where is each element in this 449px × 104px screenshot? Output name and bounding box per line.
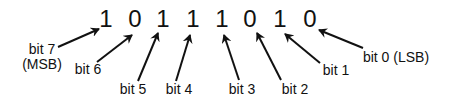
bit-digit-2: 0	[243, 7, 256, 31]
label-bit-5: bit 5	[119, 82, 147, 97]
arrow-bit-0	[319, 30, 363, 48]
label-bit-3: bit 3	[228, 82, 256, 97]
arrow-bit-2	[257, 33, 281, 80]
label-bit-2: bit 2	[281, 82, 309, 97]
arrow-bit-7	[58, 29, 99, 47]
bit-digit-7: 1	[99, 7, 112, 31]
label-bit-1: bit 1	[322, 63, 350, 78]
label-bit-4: bit 4	[165, 82, 193, 97]
arrow-bit-6	[97, 35, 132, 62]
bit-digit-6: 0	[128, 7, 141, 31]
bit-digit-1: 1	[273, 7, 286, 31]
bit-digit-4: 1	[186, 7, 199, 31]
arrow-bit-3	[224, 35, 239, 80]
bit-digit-5: 1	[156, 7, 169, 31]
arrow-bit-1	[285, 34, 320, 63]
arrow-bit-5	[138, 33, 158, 81]
arrow-bit-4	[176, 35, 190, 81]
label-bit-7: bit 7 (MSB)	[20, 42, 64, 72]
bit-digit-0: 0	[303, 7, 316, 31]
bit-digit-3: 1	[215, 7, 228, 31]
bit-numbering-diagram: 1 0 1 1 1 0 1 0 bit 7 (MSB) bit 6 bit 5 …	[0, 0, 449, 104]
label-bit-0-lsb: bit 0 (LSB)	[362, 50, 430, 65]
label-msb-text: (MSB)	[20, 57, 64, 72]
label-bit-7-text: bit 7	[20, 42, 64, 57]
label-bit-6: bit 6	[74, 62, 102, 77]
